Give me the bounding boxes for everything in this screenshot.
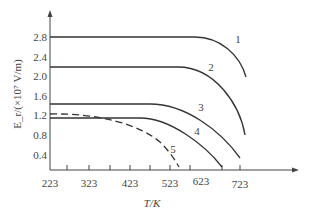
svg-text:3: 3 [198, 101, 204, 113]
x-ticks [67, 165, 240, 170]
svg-text:623: 623 [193, 175, 210, 187]
svg-text:423: 423 [122, 177, 139, 189]
curve-3 [50, 104, 240, 158]
y-axis-arrow-icon [48, 10, 53, 17]
svg-text:2: 2 [208, 61, 214, 73]
svg-text:523: 523 [162, 177, 179, 189]
svg-text:4: 4 [194, 125, 200, 137]
curve-2 [50, 67, 245, 135]
svg-text:1.6: 1.6 [33, 90, 47, 102]
svg-text:5: 5 [170, 143, 176, 155]
svg-text:0.8: 0.8 [33, 129, 47, 141]
svg-text:1.2: 1.2 [33, 109, 47, 121]
svg-text:323: 323 [81, 177, 98, 189]
curve-1 [50, 37, 246, 77]
x-tick-labels: 223 323 423 523 623 723 [42, 175, 249, 190]
x-axis-label: T/K [144, 197, 161, 209]
svg-text:2.8: 2.8 [33, 31, 47, 43]
svg-text:223: 223 [42, 177, 59, 189]
svg-text:723: 723 [232, 178, 249, 190]
chart: 223 323 423 523 623 723 0.4 0.8 1.2 1.6 … [0, 0, 310, 215]
y-tick-labels: 0.4 0.8 1.2 1.6 2.0 2.4 2.8 [33, 31, 47, 161]
y-axis-label: E_r/(×10⁷ V/m) [11, 59, 24, 129]
x-axis-arrow-icon [292, 168, 299, 173]
svg-text:2.4: 2.4 [33, 51, 47, 63]
svg-text:0.4: 0.4 [33, 149, 47, 161]
svg-text:2.0: 2.0 [33, 70, 47, 82]
svg-text:1: 1 [235, 33, 241, 45]
